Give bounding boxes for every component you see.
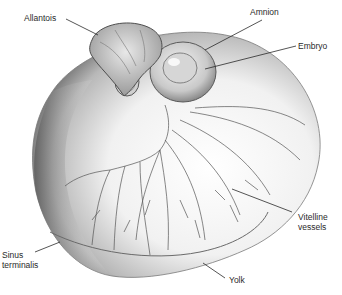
label-amnion: Amnion — [250, 7, 279, 17]
yolk-leader — [203, 263, 225, 278]
embryo — [163, 53, 197, 83]
embryo-yolk-sac-illustration — [0, 0, 342, 295]
allantois-leader — [66, 19, 98, 35]
label-allantois: Allantois — [24, 13, 56, 23]
sinus-terminalis-leader — [35, 242, 60, 252]
label-yolk: Yolk — [229, 275, 245, 285]
label-vitelline-vessels: Vitelline vessels — [298, 212, 328, 232]
label-sinus-terminalis: Sinus terminalis — [2, 250, 38, 270]
label-embryo: Embryo — [298, 41, 327, 51]
